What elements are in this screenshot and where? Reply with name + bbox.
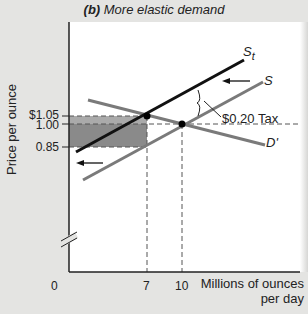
tax-bracket: [197, 90, 200, 116]
curve-label-st-sub: t: [252, 50, 255, 62]
x-axis-label: Millions of ounces per day: [198, 276, 304, 306]
curve-label-s: S: [264, 73, 273, 88]
curve-label-d-prime-text: D': [266, 135, 278, 150]
arrow-head-bottom-icon: [76, 160, 84, 166]
curve-label-st: St: [243, 44, 255, 62]
y-tick-label-085: 0.85: [19, 140, 59, 154]
x-tick-label-0: 0: [51, 279, 58, 293]
tax-label: $0.20 Tax: [222, 111, 278, 126]
y-axis-label: Price per ounce: [4, 84, 19, 175]
y-tick-label-100: 1.00: [19, 118, 59, 132]
tax-leader-line: [204, 101, 221, 117]
arrow-head-top-icon: [222, 78, 230, 84]
x-axis-label-line2: per day: [198, 291, 304, 306]
equilibrium-before-tax: [179, 121, 186, 128]
x-tick-label-7: 7: [143, 279, 150, 293]
chart-svg: [0, 0, 308, 314]
curve-label-d-prime: D': [266, 135, 278, 150]
x-tick-label-10: 10: [175, 279, 188, 293]
equilibrium-after-tax: [144, 113, 151, 120]
curve-label-s-text: S: [264, 73, 273, 88]
curve-label-st-main: S: [243, 44, 252, 59]
x-axis-label-line1: Millions of ounces: [198, 276, 304, 291]
